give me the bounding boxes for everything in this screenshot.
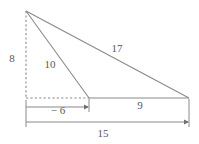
dimension-arrowhead-minus-6 [84, 105, 89, 110]
label-hypotenuse-17: 17 [112, 43, 123, 54]
side-10-line [26, 11, 89, 98]
label-base-total-15: 15 [98, 128, 109, 139]
geometry-canvas [0, 0, 199, 144]
hypotenuse-17-line [26, 11, 189, 98]
label-offset-minus-6: − 6 [51, 105, 65, 116]
geometry-figure: 8 10 17 9 − 6 15 [0, 0, 199, 144]
label-altitude-8: 8 [9, 53, 15, 64]
label-side-10: 10 [45, 59, 56, 70]
dimension-arrowhead-15 [184, 120, 189, 125]
label-base-right-9: 9 [137, 100, 143, 111]
